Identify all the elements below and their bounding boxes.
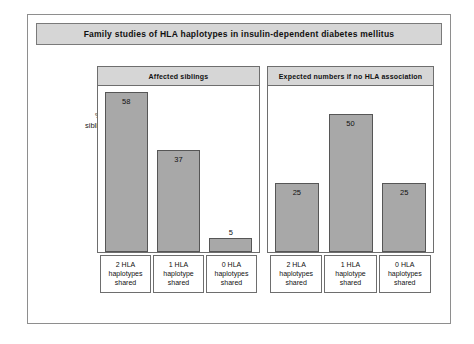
label-line-3: shared xyxy=(325,278,375,287)
bar-slot: 25 xyxy=(377,86,431,252)
bar-value-label: 25 xyxy=(383,188,425,197)
label-line-2: haplotype xyxy=(325,269,375,278)
plot-area-expected-numbers: 25 50 25 xyxy=(267,86,434,253)
bar-value-label: 37 xyxy=(158,155,199,164)
figure-title: Family studies of HLA haplotypes in insu… xyxy=(36,23,442,45)
label-line-1: 0 HLA xyxy=(380,260,430,269)
label-line-1: 1 HLA xyxy=(325,260,375,269)
label-line-2: haplotypes xyxy=(207,269,256,278)
panel-header-affected-siblings: Affected siblings xyxy=(97,66,260,86)
bar-value-label: 25 xyxy=(276,188,318,197)
label-line-2: haplotypes xyxy=(271,269,321,278)
panel-header-expected-numbers: Expected numbers if no HLA association xyxy=(267,66,434,86)
bar-slot: 37 xyxy=(152,86,204,252)
bar-value-label: 50 xyxy=(330,119,372,128)
label-line-1: 2 HLA xyxy=(271,260,321,269)
label-line-2: haplotypes xyxy=(101,269,150,278)
plot-area-affected-siblings: 58 37 5 xyxy=(97,86,260,253)
bar-slot: 25 xyxy=(270,86,324,252)
panel-affected-siblings: Affected siblings 58 37 5 2 HLA ha xyxy=(97,66,260,306)
label-line-3: shared xyxy=(271,278,321,287)
category-label-strip-affected: 2 HLA haplotypes shared 1 HLA haplotype … xyxy=(97,255,260,293)
label-line-2: haplotypes xyxy=(380,269,430,278)
label-line-1: 2 HLA xyxy=(101,260,150,269)
label-line-3: shared xyxy=(380,278,430,287)
category-label-expected-2-haplotypes: 2 HLA haplotypes shared xyxy=(270,255,322,293)
bar-affected-2-haplotypes[interactable]: 58 xyxy=(105,92,148,252)
label-line-2: haplotype xyxy=(154,269,203,278)
figure-card: Family studies of HLA haplotypes in insu… xyxy=(27,14,451,324)
bar-slot: 50 xyxy=(324,86,378,252)
category-label-affected-1-haplotype: 1 HLA haplotype shared xyxy=(153,255,204,293)
category-label-expected-0-haplotypes: 0 HLA haplotypes shared xyxy=(379,255,431,293)
category-label-affected-0-haplotypes: 0 HLA haplotypes shared xyxy=(206,255,257,293)
bar-affected-0-haplotypes[interactable]: 5 xyxy=(209,238,252,252)
label-line-1: 0 HLA xyxy=(207,260,256,269)
panel-expected-numbers: Expected numbers if no HLA association 2… xyxy=(267,66,434,306)
bar-expected-0-haplotypes[interactable]: 25 xyxy=(382,183,426,252)
category-label-strip-expected: 2 HLA haplotypes shared 1 HLA haplotype … xyxy=(267,255,434,293)
label-line-3: shared xyxy=(207,278,256,287)
bar-affected-1-haplotype[interactable]: 37 xyxy=(157,150,200,252)
label-line-3: shared xyxy=(101,278,150,287)
bar-slot: 5 xyxy=(205,86,257,252)
bar-expected-1-haplotype[interactable]: 50 xyxy=(329,114,373,252)
bar-slot: 58 xyxy=(100,86,152,252)
category-label-affected-2-haplotypes: 2 HLA haplotypes shared xyxy=(100,255,151,293)
bar-value-label: 5 xyxy=(210,228,251,237)
label-line-1: 1 HLA xyxy=(154,260,203,269)
bar-expected-2-haplotypes[interactable]: 25 xyxy=(275,183,319,252)
label-line-3: shared xyxy=(154,278,203,287)
category-label-expected-1-haplotype: 1 HLA haplotype shared xyxy=(324,255,376,293)
bar-value-label: 58 xyxy=(106,97,147,106)
